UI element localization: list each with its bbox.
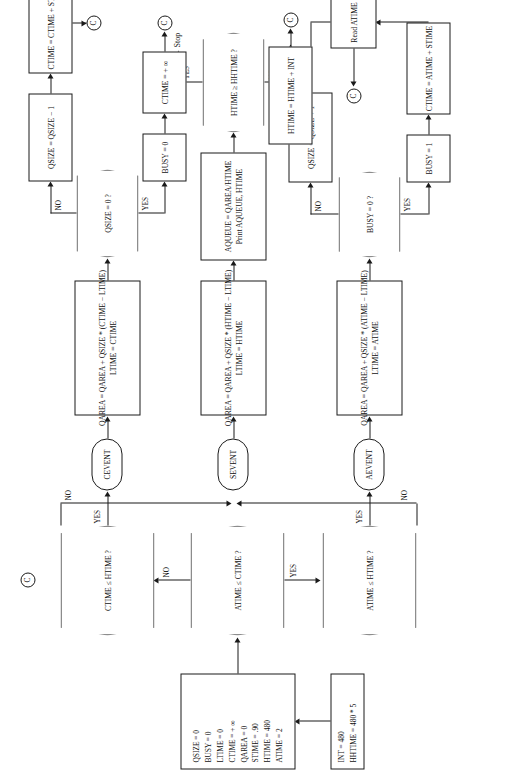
c6-label: CTIME = CTIME + STIME <box>45 0 56 69</box>
connector-c-departure-idle-label: C <box>159 20 170 25</box>
a2-label: BUSY = 0 ? <box>365 195 374 232</box>
label-d2-no: NO <box>400 490 408 500</box>
label-d1-no: NO <box>162 567 170 577</box>
label-d2-yes: YES <box>355 509 363 523</box>
node-decision-ctime-le-htime: CTIME ≤ HTIME ? <box>60 525 154 635</box>
node-a3-busy-set: BUSY = 1 <box>406 134 450 182</box>
a4-label: CTIME = ATIME + STIME <box>423 25 434 110</box>
s2-line-2: Print AQUEUE, HTIME <box>233 160 244 252</box>
s3-label: HTIME ≥ HHTIME ? <box>229 49 238 116</box>
a6-label: Read ATIME <box>348 2 359 42</box>
connector-c-loop-entry: C <box>20 572 35 587</box>
label-d3-yes: YES <box>93 509 101 523</box>
decision-2-label: ATIME ≤ HTIME ? <box>365 550 374 610</box>
node-s1-qarea-update: QAREA = QAREA + QSIZE * (HTIME − LTIME) … <box>200 280 266 415</box>
arrowhead-d2-no <box>236 500 241 506</box>
int-line-2: HHTIME = 480 * 5 <box>347 703 359 762</box>
edge-c2-no-v <box>50 212 76 213</box>
edge-a1-to-a2 <box>369 262 370 280</box>
node-decision-qsize-eq-0: QSIZE = 0 ? <box>76 169 138 257</box>
node-s2-aqueue-print: AQUEUE = QAREA/HTIME Print AQUEUE, HTIME <box>200 152 266 260</box>
decision-1-label: ATIME ≤ CTIME ? <box>233 550 242 610</box>
arrowhead-a2-yes <box>425 182 431 187</box>
figure-canvas: INT = 480 HHTIME = 480 * 5 QSIZE = 0 BUS… <box>0 0 508 783</box>
edge-a2-yes-v <box>400 213 428 214</box>
edge-c3-to-c4 <box>164 117 165 133</box>
edge-a6-to-connector <box>353 48 354 83</box>
node-a1-qarea-update: QAREA = QAREA + QSIZE * (ATIME − LTIME) … <box>336 280 402 415</box>
init-line-4: CTIME = + ∞ <box>226 720 238 762</box>
arrowhead-a2-no <box>307 182 313 187</box>
connector-c-arrival-label: C <box>348 93 359 98</box>
edge-d1-yes <box>284 579 316 580</box>
init-line-2: BUSY = 0 <box>202 720 214 762</box>
node-terminal-cevent: CEVENT <box>91 438 122 490</box>
arrowhead-d1-yes <box>315 577 320 583</box>
edge-s4-to-connector <box>290 32 291 46</box>
arrowhead-c6-connector <box>81 20 86 26</box>
arrowhead-c4-to-connector <box>161 31 167 36</box>
node-a6-read-atime: Read ATIME <box>330 0 376 48</box>
arrowhead-s4-to-connector <box>287 28 293 33</box>
s1-line-1: QAREA = QAREA + QSIZE * (HTIME − LTIME) <box>222 269 233 425</box>
edge-c4-to-connector <box>164 35 165 51</box>
c3-label: BUSY = 0 <box>159 141 170 173</box>
label-c2-no: NO <box>54 200 62 210</box>
edge-d2-no-v <box>240 502 416 503</box>
node-terminal-aevent: AEVENT <box>353 438 384 490</box>
arrowhead-s2-to-s3 <box>230 132 236 137</box>
node-terminal-sevent: SEVENT <box>217 438 248 490</box>
node-s4-htime-increment: HTIME = HTIME + INT <box>268 46 312 144</box>
arrowhead-c2-no <box>47 181 53 186</box>
a1-line-1: QAREA = QAREA + QSIZE * (ATIME − LTIME) <box>358 270 369 426</box>
edge-d2-to-aevent <box>369 495 370 525</box>
node-c1-qarea-update: QAREA = QAREA + QSIZE * (CTIME − LTIME) … <box>74 280 140 415</box>
edge-c2-yes-v <box>138 212 164 213</box>
connector-c-departure-idle: C <box>157 15 172 30</box>
c4-label: CTIME = + ∞ <box>159 60 170 103</box>
edge-s2-to-s3 <box>233 136 234 152</box>
s1-line-2: LTIME = HTIME <box>233 269 244 425</box>
node-c5-qsize-decrement: QSIZE = QSIZE − 1 <box>28 93 72 181</box>
node-c3-busy-clear: BUSY = 0 <box>142 133 186 181</box>
edge-init-to-d1 <box>237 641 238 673</box>
arrowhead-a3-to-a4 <box>425 114 431 119</box>
arrowhead-c1-to-c2 <box>104 258 110 263</box>
init-line-6: STIME = .90 <box>249 720 261 762</box>
c2-label: QSIZE = 0 ? <box>103 194 112 233</box>
arrowhead-init-to-d1 <box>234 637 240 642</box>
connector-c-arrival: C <box>346 88 361 103</box>
connector-c-departure-queue-label: C <box>88 20 99 25</box>
decision-3-label: CTIME ≤ HTIME ? <box>103 550 112 611</box>
flowchart: INT = 480 HHTIME = 480 * 5 QSIZE = 0 BUS… <box>0 0 508 783</box>
int-line-1: INT = 480 <box>335 703 347 762</box>
node-decision-busy-eq-0-arrival: BUSY = 0 ? <box>338 171 400 257</box>
arrowhead-c2-yes <box>161 181 167 186</box>
edge-c5-to-c6 <box>50 77 51 93</box>
edge-d1-no <box>158 579 190 580</box>
init-line-8: ATIME = 2 <box>273 720 285 762</box>
connector-c-loop-entry-label: C <box>22 577 33 582</box>
cevent-label: CEVENT <box>101 449 112 479</box>
a3-label: BUSY = 1 <box>423 142 434 174</box>
arrowhead-d3-no <box>226 500 231 506</box>
edge-c2-no-h <box>50 185 51 213</box>
init-line-1: QSIZE = 0 <box>190 720 202 762</box>
arrowhead-d2-to-aevent <box>366 491 372 496</box>
label-c2-yes: YES <box>141 196 149 210</box>
init-line-7: HTIME = 480 <box>261 720 273 762</box>
node-decision-atime-le-htime: ATIME ≤ HTIME ? <box>322 525 416 635</box>
edge-s1-to-s2 <box>233 264 234 280</box>
node-c6-ctime-plus-stime: CTIME = CTIME + STIME <box>28 0 72 73</box>
node-stop-label: Stop <box>172 32 181 47</box>
arrowhead-a1-to-a2 <box>366 258 372 263</box>
edge-a2-yes-h <box>428 186 429 214</box>
edge-a2-no-h <box>310 186 311 214</box>
edge-d3-no-h <box>60 503 61 525</box>
a1-line-2: LTIME = ATIME <box>369 270 380 426</box>
s2-line-1: AQUEUE = QAREA/HTIME <box>222 160 233 252</box>
label-d3-no: NO <box>64 490 72 500</box>
node-init-box: QSIZE = 0 BUSY = 0 LTIME = 0 CTIME = + ∞… <box>180 673 295 769</box>
c1-line-2: LTIME = CTIME <box>107 270 118 426</box>
s4-label: HTIME = HTIME + INT <box>285 57 296 134</box>
